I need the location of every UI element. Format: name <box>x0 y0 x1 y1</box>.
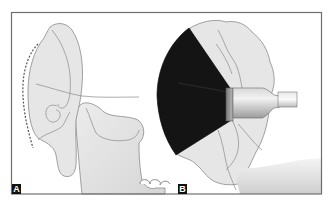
panel-a <box>23 24 165 194</box>
ultrasound-probe <box>226 88 297 121</box>
teeth-b <box>160 181 170 185</box>
auricle-a <box>28 24 83 177</box>
probe-face <box>226 88 233 121</box>
ear-ultrasound-figure: A B <box>0 0 329 202</box>
panel-label-b: B <box>178 184 187 194</box>
probe-body <box>233 88 280 118</box>
figure-canvas <box>0 0 329 202</box>
probe-cable <box>278 92 297 107</box>
panel-b <box>157 20 322 194</box>
panel-label-a: A <box>12 184 21 194</box>
